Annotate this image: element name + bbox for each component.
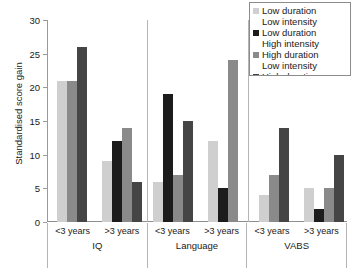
bar xyxy=(77,47,87,222)
bar xyxy=(132,182,142,222)
x-group-labels: <3 years>3 years xyxy=(247,223,346,236)
legend-entry: High durationLow intensity xyxy=(253,49,346,71)
x-panel-vabs: <3 years>3 yearsVABS xyxy=(247,223,347,268)
bar xyxy=(208,141,218,222)
y-tick-label: 30 xyxy=(29,15,40,26)
bar-group xyxy=(47,20,97,222)
bar-group xyxy=(148,20,198,222)
bar xyxy=(102,161,112,222)
x-panel-label: IQ xyxy=(92,240,102,251)
x-panel-language: <3 years>3 yearsLanguage xyxy=(148,223,248,268)
legend-label-duration: High duration xyxy=(262,49,319,60)
y-tick-label: 25 xyxy=(29,48,40,59)
legend-swatch-icon xyxy=(253,30,259,36)
y-tick-label: 5 xyxy=(35,183,40,194)
legend-row-primary: Low duration xyxy=(253,5,346,16)
x-group-label: >3 years xyxy=(105,226,140,236)
x-group-label: <3 years xyxy=(55,226,90,236)
bar xyxy=(269,175,279,222)
y-tick-label: 20 xyxy=(29,82,40,93)
legend-entries: Low durationLow intensityLow durationHig… xyxy=(253,5,346,76)
y-tick-label: 10 xyxy=(29,149,40,160)
legend-entry: Low durationLow intensity xyxy=(253,5,346,27)
bar xyxy=(173,175,183,222)
chart-root: Standardised score gain 051015202530 <3 … xyxy=(0,0,352,275)
bar xyxy=(324,188,334,222)
bar xyxy=(279,128,289,222)
x-panel-iq: <3 years>3 yearsIQ xyxy=(47,223,148,268)
bar xyxy=(314,209,324,222)
legend-swatch-icon xyxy=(253,74,259,77)
bar xyxy=(259,195,269,222)
legend-swatch-icon xyxy=(253,52,259,58)
bar xyxy=(334,155,344,222)
x-group-label: >3 years xyxy=(304,226,339,236)
bar xyxy=(112,141,122,222)
x-panel-label: VABS xyxy=(284,240,309,251)
legend-row-primary: High duration xyxy=(253,71,346,76)
bar-group xyxy=(97,20,147,222)
x-group-labels: <3 years>3 years xyxy=(148,223,247,236)
x-group-label: <3 years xyxy=(155,226,190,236)
bar xyxy=(218,188,228,222)
legend-label-duration: Low duration xyxy=(262,5,316,16)
x-axis-label-band: <3 years>3 yearsIQ<3 years>3 yearsLangua… xyxy=(47,223,347,268)
y-tick-label: 15 xyxy=(29,116,40,127)
x-panel-label: Language xyxy=(176,240,218,251)
legend-row-primary: Low duration xyxy=(253,27,346,38)
x-group-labels: <3 years>3 years xyxy=(48,223,147,236)
legend-label-intensity: Low intensity xyxy=(253,16,346,27)
legend-entry: High durationHigh intensity xyxy=(253,71,346,76)
x-group-label: <3 years xyxy=(255,226,290,236)
legend: Low durationLow intensityLow durationHig… xyxy=(249,2,351,76)
legend-label-duration: Low duration xyxy=(262,27,316,38)
bar xyxy=(153,182,163,222)
x-group-label: >3 years xyxy=(204,226,239,236)
legend-label-intensity: Low intensity xyxy=(253,60,346,71)
bar xyxy=(67,81,77,222)
legend-label-duration: High duration xyxy=(262,71,319,76)
panel-iq xyxy=(47,20,147,222)
legend-label-intensity: High intensity xyxy=(253,38,346,49)
bar xyxy=(57,81,67,222)
bar xyxy=(304,188,314,222)
y-axis-title: Standardised score gain xyxy=(13,34,24,194)
legend-row-primary: High duration xyxy=(253,49,346,60)
bar-group xyxy=(198,20,248,222)
bar xyxy=(183,121,193,222)
bar xyxy=(163,94,173,222)
bar xyxy=(228,60,238,222)
legend-entry: Low durationHigh intensity xyxy=(253,27,346,49)
panel-language xyxy=(147,20,248,222)
y-tick-label: 0 xyxy=(35,217,40,228)
bar xyxy=(122,128,132,222)
legend-swatch-icon xyxy=(253,8,259,14)
